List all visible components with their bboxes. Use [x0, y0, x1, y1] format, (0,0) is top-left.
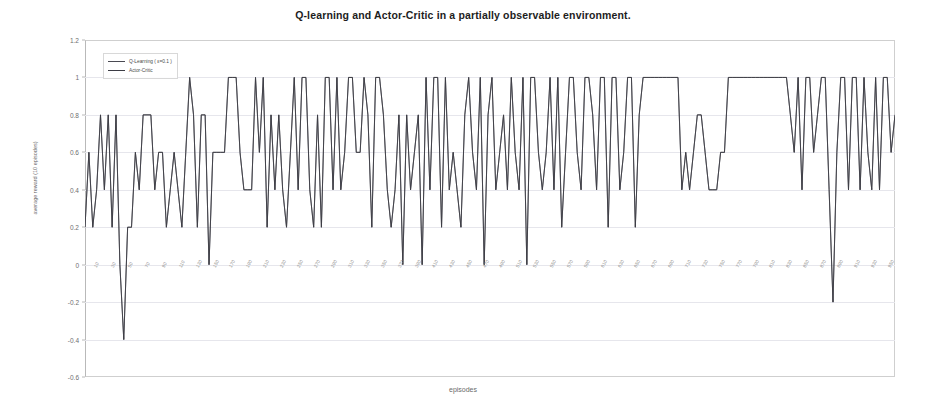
- x-tick-label: 670: [650, 259, 658, 268]
- x-tick-label: 350: [380, 259, 388, 268]
- x-tick-label: 30: [110, 261, 117, 268]
- y-tick-label: 0.4: [70, 186, 79, 193]
- y-axis-label: average reward (10 episodes): [32, 93, 38, 263]
- x-tick-label: 90: [161, 261, 168, 268]
- legend: Q-Learning ( ε=0.1 ) Actor-Critic: [103, 53, 178, 79]
- legend-label-q-learning: Q-Learning ( ε=0.1 ): [129, 57, 172, 66]
- legend-swatch-q-learning: [108, 61, 125, 62]
- legend-swatch-actor-critic: [108, 70, 125, 71]
- x-tick-label: 530: [532, 259, 540, 268]
- x-tick-label: 190: [245, 259, 253, 268]
- plot-area: Q-Learning ( ε=0.1 ) Actor-Critic: [85, 40, 895, 377]
- series-lines: [85, 40, 895, 377]
- x-tick-label: 690: [667, 259, 675, 268]
- y-axis-tick-group: 1.210.80.60.40.20-0.2-0.4-0.6: [0, 40, 85, 377]
- legend-item-q-learning[interactable]: Q-Learning ( ε=0.1 ): [108, 57, 172, 66]
- x-tick-label: 70: [144, 261, 151, 268]
- x-tick-label: 850: [802, 259, 810, 268]
- x-axis-label: episodes: [0, 386, 926, 393]
- y-tick-label: -0.6: [68, 374, 79, 381]
- x-tick-label: 650: [633, 259, 641, 268]
- y-tick-label: 0.6: [70, 149, 79, 156]
- series-line-actor-critic: [85, 77, 895, 339]
- x-tick-label: 210: [262, 259, 270, 268]
- y-tick-label: 0.2: [70, 224, 79, 231]
- series-line-q-learning: [85, 77, 895, 339]
- x-tick-label: 50: [127, 261, 134, 268]
- x-tick-label: 490: [498, 259, 506, 268]
- x-tick-label: 810: [768, 259, 776, 268]
- chart-title: Q-learning and Actor-Critic in a partial…: [0, 9, 926, 21]
- y-tick-label: 0: [75, 261, 79, 268]
- x-tick-label: 830: [785, 259, 793, 268]
- y-tick-label: -0.4: [68, 336, 79, 343]
- y-tick-label: 1.2: [70, 37, 79, 44]
- y-tick-label: 1: [75, 74, 79, 81]
- legend-label-actor-critic: Actor-Critic: [129, 66, 153, 75]
- x-tick-label: 170: [228, 259, 236, 268]
- y-tick-label: -0.2: [68, 299, 79, 306]
- x-tick-label: 510: [515, 259, 523, 268]
- x-tick-label: 370: [397, 259, 405, 268]
- x-axis-tick-group: 1030507090110130150170190210230250270290…: [85, 264, 895, 290]
- legend-item-actor-critic[interactable]: Actor-Critic: [108, 66, 172, 75]
- y-tick-label: 0.8: [70, 111, 79, 118]
- x-tick-label: 330: [363, 259, 371, 268]
